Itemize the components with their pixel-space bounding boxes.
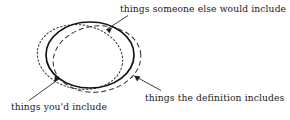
leader-line-youd-include xyxy=(29,76,60,100)
label-things-someone-else-would-include: things someone else would include xyxy=(120,4,286,13)
label-things-the-definition-includes: things the definition includes xyxy=(145,93,284,102)
curve-things-someone-else-would-include xyxy=(49,20,145,98)
label-things-youd-include: things you'd include xyxy=(11,102,107,111)
leader-line-someone-else xyxy=(107,16,129,34)
leader-line-definition xyxy=(135,76,162,91)
figure-canvas: things someone else would include things… xyxy=(0,0,290,120)
